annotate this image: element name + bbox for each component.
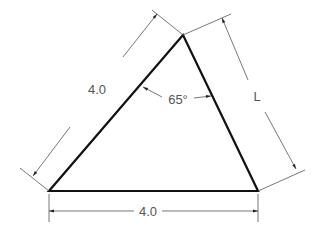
left-dimension	[20, 10, 183, 191]
triangle-shape	[49, 35, 258, 191]
right-side-label: L	[253, 89, 260, 104]
apex-angle-label: 65°	[168, 92, 188, 107]
right-dimension	[183, 14, 305, 191]
bottom-side-label: 4.0	[139, 204, 157, 219]
triangle-diagram: 4.0 L 4.0 65°	[0, 0, 322, 232]
left-side-label: 4.0	[88, 82, 106, 97]
